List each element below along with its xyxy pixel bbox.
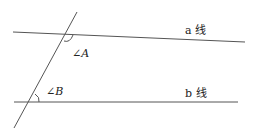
angle-a-arc xyxy=(64,35,73,41)
diagram-canvas xyxy=(0,0,255,140)
line-a xyxy=(13,32,245,42)
angle-a-label: ∠A xyxy=(72,47,89,60)
transversal-line xyxy=(14,12,77,128)
line-b-label: b 线 xyxy=(185,84,207,100)
angle-b-label: ∠B xyxy=(46,85,63,98)
angle-b-arc xyxy=(35,94,39,102)
line-a-label: a 线 xyxy=(185,21,206,37)
